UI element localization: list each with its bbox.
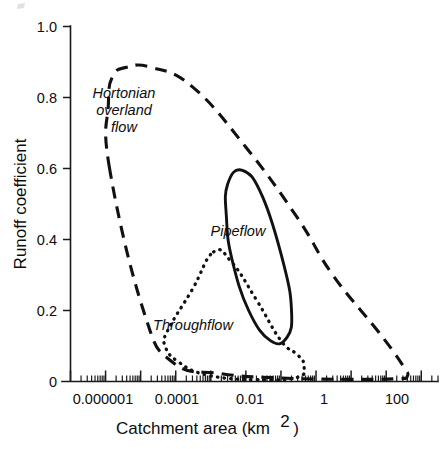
- x-tick-label-1: 0.000001: [73, 391, 133, 407]
- runoff-coefficient-chart: 1.0 0.8 0.6 0.4 0.2 0 Runoff coefficient…: [0, 0, 446, 449]
- annotation-pipeflow: Pipeflow: [211, 223, 267, 239]
- y-tick-label-6: 0: [49, 374, 57, 390]
- y-tick-label-4: 0.4: [37, 232, 57, 248]
- chart-figure: 1.0 0.8 0.6 0.4 0.2 0 Runoff coefficient…: [0, 0, 446, 449]
- y-tick-label-3: 0.6: [37, 161, 57, 177]
- y-tick-label-5: 0.2: [37, 303, 57, 319]
- annotation-throughflow: Throughflow: [153, 317, 234, 333]
- x-tick-label-2: 0.0001: [155, 391, 199, 407]
- x-axis-title-main: Catchment area (km: [116, 419, 270, 438]
- y-tick-label-1: 1.0: [37, 19, 57, 35]
- x-tick-label-3: 0.01: [236, 391, 264, 407]
- y-axis-title: Runoff coefficient: [11, 138, 30, 269]
- x-tick-label-5: 100: [385, 391, 409, 407]
- annotation-hortonian-line2: overland: [96, 102, 153, 118]
- y-tick-label-2: 0.8: [37, 90, 57, 106]
- annotation-hortonian-line1: Hortonian: [93, 85, 156, 101]
- x-axis-title-end: ): [293, 419, 299, 438]
- x-tick-label-4: 1: [320, 391, 328, 407]
- annotation-hortonian-line3: flow: [111, 119, 138, 135]
- x-axis-title-superscript: 2: [280, 412, 289, 431]
